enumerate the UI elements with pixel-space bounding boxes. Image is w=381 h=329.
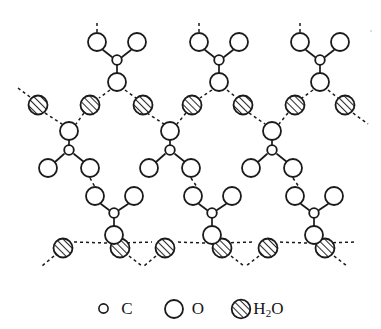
hatched-circle-icon [230, 298, 252, 320]
water-molecule [29, 96, 355, 115]
scan-artifact [370, 30, 372, 32]
legend-label-carbon: C [121, 300, 133, 317]
atom-layer [29, 33, 355, 258]
water-symbol-h: H [253, 299, 265, 318]
small-open-circle-icon [97, 302, 110, 315]
legend: C O H2O [0, 288, 381, 329]
lattice-diagram [0, 0, 381, 329]
water-symbol-o: O [271, 299, 283, 318]
oxygen-atom [242, 33, 349, 244]
legend-item-water: H2O [230, 298, 284, 320]
legend-label-oxygen: O [192, 300, 204, 317]
legend-label-water: H2O [253, 300, 284, 317]
legend-item-carbon: C [97, 300, 133, 317]
legend-item-oxygen: O [163, 298, 204, 320]
oxygen-atom [140, 33, 248, 244]
large-open-circle-icon [163, 298, 185, 320]
water-subscript-2: 2 [266, 307, 272, 319]
water-molecule [54, 239, 335, 258]
oxygen-atom [39, 33, 146, 244]
